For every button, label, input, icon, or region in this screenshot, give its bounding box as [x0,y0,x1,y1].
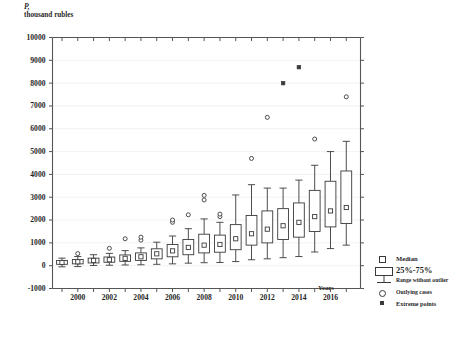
boxplot [151,242,162,264]
legend-range-label: Range without outlier [396,277,448,283]
legend-extreme-label: Extreme points [396,300,436,307]
boxplot [88,255,99,266]
legend-median-label: Median [396,255,418,262]
legend-outlier-icon [379,290,386,297]
y-tick-label: 1000 [0,238,46,247]
legend-quartile-label: 25%-75% [396,266,432,275]
x-tick-label: 2010 [220,293,252,302]
boxplot [104,246,115,265]
boxplot [72,252,83,267]
x-tick-label: 2002 [93,293,125,302]
x-tick-label: 2016 [314,293,346,302]
y-tick-label: 5000 [0,147,46,156]
boxplot [278,81,289,257]
x-tick-label: 2000 [62,293,94,302]
boxplot-series [57,65,352,266]
boxplot [325,152,336,249]
boxplot [199,193,210,262]
y-tick-label: 0 [0,261,46,270]
axis-ticks [49,38,364,293]
y-tick-label: -1000 [0,284,46,293]
y-tick-label: 3000 [0,193,46,202]
legend: Median 25%-75% Range without outlier Out… [371,255,467,317]
x-tick-label: 2014 [283,293,315,302]
boxplot [230,195,241,262]
x-tick-label: 2006 [157,293,189,302]
boxplot [294,65,305,256]
boxplot [341,95,352,245]
boxplot [309,137,320,252]
y-tick-label: 9000 [0,56,46,65]
legend-outlier-label: Outlying cases [396,289,432,295]
y-tick-label: 8000 [0,79,46,88]
x-tick-label: 2012 [251,293,283,302]
boxplot [262,115,273,258]
boxplot [246,156,257,259]
y-tick-label: 2000 [0,215,46,224]
boxplot [136,235,147,265]
boxplot [167,218,178,264]
y-tick-label: 10000 [0,33,46,42]
x-tick-label: 2008 [188,293,220,302]
chart-root: P, thousand rubles -10000100020003000400… [0,0,469,338]
x-tick-label: 2004 [125,293,157,302]
x-axis-title: Years [318,284,334,291]
y-tick-label: 4000 [0,170,46,179]
boxplot [120,237,131,265]
y-tick-label: 6000 [0,124,46,133]
legend-median-icon [379,256,386,263]
y-tick-label: 7000 [0,101,46,110]
legend-extreme-icon [380,301,384,305]
legend-box-icon [373,265,395,287]
